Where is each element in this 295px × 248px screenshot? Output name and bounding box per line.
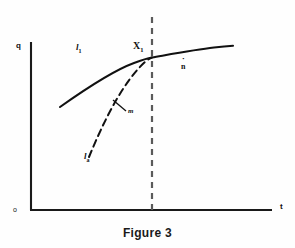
leader-line-m bbox=[113, 100, 126, 111]
point-label-x1-subscript: 1 bbox=[140, 46, 143, 53]
figure-caption: Figure 3 bbox=[0, 226, 295, 240]
curve-label-l1-subscript: 1 bbox=[79, 48, 82, 54]
solid-curve-l1 bbox=[60, 46, 233, 107]
curve-label-la-subscript: a bbox=[87, 157, 90, 163]
curve-label-l1: l1 bbox=[76, 43, 82, 54]
dashed-curve-la bbox=[89, 58, 152, 158]
curve-label-la: la bbox=[84, 152, 90, 163]
curve-label-m: m bbox=[128, 108, 133, 115]
figure-3-container: q t o l1 X1 m la ·n Figure 3 bbox=[0, 0, 295, 248]
figure-drawing bbox=[0, 0, 295, 248]
curve-label-n-base: n bbox=[181, 62, 185, 71]
y-axis-label: q bbox=[16, 42, 21, 50]
point-label-x1: X1 bbox=[133, 41, 143, 54]
origin-label: o bbox=[13, 206, 17, 213]
curve-label-n: ·n bbox=[181, 55, 185, 72]
x-axis-label: t bbox=[280, 203, 283, 211]
